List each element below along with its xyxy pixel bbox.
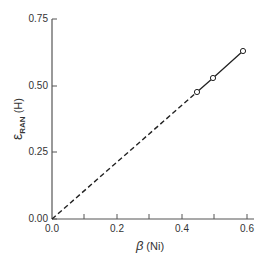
data-point xyxy=(210,75,215,80)
y-tick-label: 0.25 xyxy=(29,146,49,157)
chart: 0.75 0.50 0.25 0.00 0.0 0.2 0.4 0.6 β(Ni… xyxy=(0,0,269,262)
x-axis-title: β(Ni) xyxy=(135,238,164,253)
y-tick-labels: 0.75 0.50 0.25 0.00 xyxy=(29,13,49,224)
x-tick-label: 0.4 xyxy=(175,223,189,234)
data-line xyxy=(197,51,243,92)
x-tick-label: 0.0 xyxy=(45,223,59,234)
y-tick-label: 0.75 xyxy=(29,13,49,24)
y-ticks xyxy=(52,19,57,219)
y-tick-label: 0.50 xyxy=(29,80,49,91)
extrapolation-line xyxy=(52,92,197,219)
x-ticks xyxy=(84,214,247,219)
data-point xyxy=(240,48,245,53)
y-axis-title: εRAN(H) xyxy=(9,98,27,140)
x-tick-label: 0.6 xyxy=(240,223,254,234)
data-point xyxy=(194,89,199,94)
x-tick-labels: 0.0 0.2 0.4 0.6 xyxy=(45,223,254,234)
x-tick-label: 0.2 xyxy=(110,223,124,234)
